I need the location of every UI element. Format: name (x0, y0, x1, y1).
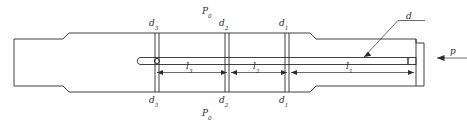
dimension-l1 (291, 70, 414, 75)
label-d3-bottom: d3 (149, 96, 158, 107)
label-d3-top: d3 (149, 19, 158, 30)
label-d2-bottom: d2 (219, 96, 228, 107)
label-d1-bottom: d1 (279, 96, 288, 107)
label-l1: l1 (346, 62, 352, 73)
partition-d1 (285, 33, 289, 92)
label-l2: l2 (253, 62, 259, 73)
label-pressure-force: p (450, 47, 456, 56)
body-outline-upper (14, 33, 424, 43)
engineering-diagram: P0 d3 d2 d1 d p l3 l2 l1 d3 d2 d1 P0 (0, 0, 467, 125)
partition-d2 (225, 33, 229, 92)
label-d1-top: d1 (279, 19, 288, 30)
rod-end-block (408, 58, 416, 65)
partition-d3 (155, 33, 159, 92)
label-p0-bottom: P0 (202, 109, 212, 120)
label-p0-top: P0 (202, 7, 212, 18)
label-l3: l3 (186, 62, 192, 73)
diagram-canvas (0, 0, 467, 125)
label-d2-top: d2 (219, 19, 228, 30)
body-outline-lower (14, 86, 424, 92)
rod-outline (137, 58, 408, 65)
label-rod-diameter: d (406, 12, 412, 21)
